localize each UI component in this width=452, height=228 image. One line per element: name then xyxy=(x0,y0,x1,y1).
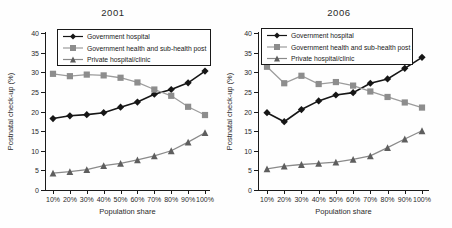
y-tick-label: 35 xyxy=(244,50,252,57)
data-point-marker xyxy=(367,80,374,87)
data-point-marker xyxy=(401,136,408,143)
x-tick-label: 30% xyxy=(80,196,94,203)
data-point-marker xyxy=(117,75,123,81)
x-tick-label: 20% xyxy=(63,196,77,203)
data-point-marker xyxy=(67,73,73,79)
series-triangle xyxy=(50,129,209,176)
data-point-marker xyxy=(367,88,373,94)
data-point-marker xyxy=(384,94,390,100)
y-tick-label: 0 xyxy=(248,187,252,194)
x-tick-label: 30% xyxy=(294,196,308,203)
y-axis-label: Postnatal check-up (%) xyxy=(6,72,15,150)
line-chart-2006: 051015202530354010%20%30%40%50%60%70%80%… xyxy=(226,0,452,228)
data-point-marker xyxy=(100,109,107,116)
x-tick-label: 10% xyxy=(46,196,60,203)
y-tick-label: 0 xyxy=(35,187,39,194)
legend-label: Government hospital xyxy=(87,33,150,41)
data-point-marker xyxy=(66,112,73,119)
y-tick-label: 35 xyxy=(31,50,39,57)
x-tick-label: 60% xyxy=(130,196,144,203)
series-square xyxy=(50,71,208,118)
data-point-marker xyxy=(50,71,56,77)
y-tick-label: 5 xyxy=(35,167,39,174)
y-tick-label: 10 xyxy=(244,148,252,155)
x-tick-label: 70% xyxy=(147,196,161,203)
data-point-marker xyxy=(315,97,322,104)
data-point-marker xyxy=(84,72,90,78)
x-tick-label: 20% xyxy=(277,196,291,203)
x-tick-label: 80% xyxy=(381,196,395,203)
data-point-marker xyxy=(263,109,270,116)
data-point-marker xyxy=(402,99,408,105)
data-point-marker xyxy=(168,86,175,93)
legend-label: Government health and sub-health post xyxy=(291,44,411,52)
data-point-marker xyxy=(168,93,174,99)
data-point-marker xyxy=(332,91,339,98)
legend-marker-square xyxy=(70,45,76,51)
data-point-marker xyxy=(419,127,426,134)
data-point-marker xyxy=(316,81,322,87)
series-triangle xyxy=(264,127,426,172)
legend-label: Private hospital/clinic xyxy=(291,55,355,63)
data-point-marker xyxy=(168,147,175,154)
data-point-marker xyxy=(134,98,141,105)
x-tick-label: 70% xyxy=(363,196,377,203)
x-tick-label: 40% xyxy=(97,196,111,203)
data-point-marker xyxy=(49,115,56,122)
data-point-marker xyxy=(151,86,157,92)
y-tick-label: 25 xyxy=(31,89,39,96)
y-tick-label: 15 xyxy=(31,128,39,135)
x-tick-label: 50% xyxy=(114,196,128,203)
x-tick-label: 90% xyxy=(181,196,195,203)
data-point-marker xyxy=(281,80,287,86)
y-tick-label: 30 xyxy=(31,69,39,76)
data-point-marker xyxy=(101,72,107,78)
y-tick-label: 10 xyxy=(31,148,39,155)
x-axis-label: Population share xyxy=(315,207,371,216)
y-tick-label: 40 xyxy=(31,30,39,37)
y-tick-label: 5 xyxy=(248,167,252,174)
data-point-marker xyxy=(83,111,90,118)
x-tick-label: 80% xyxy=(164,196,178,203)
legend: Government hospitalGovernment health and… xyxy=(262,29,413,65)
x-tick-label: 100% xyxy=(413,196,431,203)
data-point-marker xyxy=(185,104,191,110)
y-tick-label: 15 xyxy=(244,128,252,135)
data-point-marker xyxy=(134,79,140,85)
x-tick-label: 60% xyxy=(346,196,360,203)
x-tick-label: 90% xyxy=(398,196,412,203)
y-axis-label: Postnatal check-up (%) xyxy=(226,72,234,150)
y-tick-label: 40 xyxy=(244,30,252,37)
legend-marker-square xyxy=(274,44,280,50)
data-point-marker xyxy=(202,112,208,118)
data-point-marker xyxy=(350,82,356,88)
data-point-marker xyxy=(117,104,124,111)
data-point-marker xyxy=(419,104,425,110)
x-tick-label: 10% xyxy=(260,196,274,203)
line-chart-2001: 051015202530354010%20%30%40%50%60%70%80%… xyxy=(0,0,226,228)
y-tick-label: 30 xyxy=(244,69,252,76)
legend-label: Government hospital xyxy=(291,32,354,40)
chart-panel-2001: 2001 051015202530354010%20%30%40%50%60%7… xyxy=(0,0,226,228)
data-point-marker xyxy=(384,144,391,151)
y-tick-label: 25 xyxy=(244,89,252,96)
y-tick-label: 20 xyxy=(31,109,39,116)
legend: Government hospitalGovernment health and… xyxy=(58,30,211,66)
x-tick-label: 50% xyxy=(329,196,343,203)
data-point-marker xyxy=(298,73,304,79)
data-point-marker xyxy=(384,75,391,82)
legend-label: Private hospital/clinic xyxy=(87,56,151,64)
data-point-marker xyxy=(202,129,209,136)
figure: 2001 051015202530354010%20%30%40%50%60%7… xyxy=(0,0,452,228)
x-tick-label: 100% xyxy=(196,196,214,203)
x-tick-label: 40% xyxy=(312,196,326,203)
data-point-marker xyxy=(350,89,357,96)
data-point-marker xyxy=(333,79,339,85)
chart-panel-2006: 2006 051015202530354010%20%30%40%50%60%7… xyxy=(226,0,452,228)
legend-label: Government health and sub-health post xyxy=(87,45,207,53)
y-tick-label: 20 xyxy=(244,109,252,116)
data-point-marker xyxy=(185,139,192,146)
x-axis-label: Population share xyxy=(99,207,155,216)
